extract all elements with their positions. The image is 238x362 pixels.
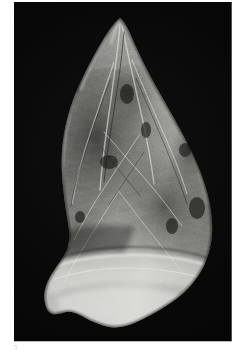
page-number: 5 (14, 343, 18, 352)
page-margin-bottom (0, 341, 238, 362)
page-sheet: 5 (0, 0, 238, 362)
page-margin-right (232, 0, 238, 362)
page-margin-left (0, 0, 14, 362)
plate-bottom-edge (14, 341, 232, 342)
artifact-photograph-panel (14, 2, 232, 341)
stone-biface-artifact (14, 2, 232, 341)
page-margin-top (0, 0, 238, 2)
plate-right-edge (231, 2, 232, 341)
